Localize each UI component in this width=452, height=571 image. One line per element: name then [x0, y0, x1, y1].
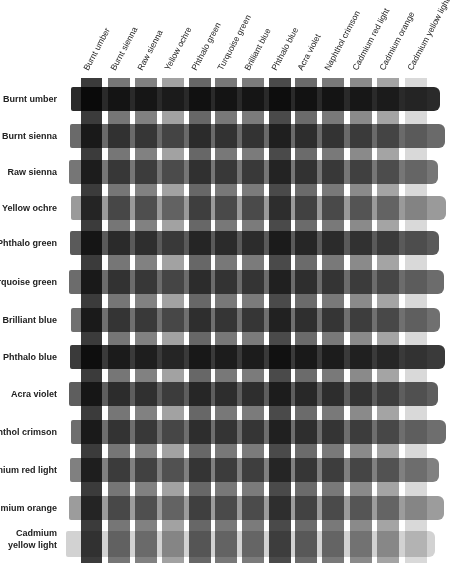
column-label-acra-violet: Acra violet	[295, 32, 322, 72]
column-strip-burnt-sienna	[108, 78, 130, 563]
column-label-burnt-sienna: Burnt sienna	[108, 25, 139, 72]
row-label-yellow-ochre: Yellow ochre	[2, 202, 57, 214]
column-strip-cadmium-orange	[377, 78, 399, 563]
column-strip-naphthol-crimson	[322, 78, 344, 563]
column-strip-raw-sienna	[135, 78, 157, 563]
pigment-mixing-chart: Burnt umberBurnt siennaRaw siennaYellow …	[0, 0, 452, 571]
column-strip-acra-violet	[295, 78, 317, 563]
column-label-yellow-ochre: Yellow ochre	[162, 25, 193, 72]
row-label-burnt-umber: Burnt umber	[3, 93, 57, 105]
row-label-cadmium-red-light: Cadmium red light	[0, 464, 57, 476]
row-label-cadmium-orange: Cadmium orange	[0, 502, 57, 514]
column-strip-phthalo-blue	[269, 78, 291, 563]
column-label-burnt-umber: Burnt umber	[81, 26, 112, 72]
column-label-cadmium-yellow-light: Cadmium yellow light	[405, 0, 452, 72]
column-strip-cadmium-red-light	[350, 78, 372, 563]
column-strip-burnt-umber	[81, 78, 102, 563]
row-label-acra-violet: Acra violet	[11, 388, 57, 400]
row-label-burnt-sienna: Burnt sienna	[2, 130, 57, 142]
row-label-brilliant-blue: Brilliant blue	[2, 314, 57, 326]
column-strip-turquoise-green	[215, 78, 237, 563]
column-strip-brilliant-blue	[242, 78, 264, 563]
column-strip-phthalo-green	[189, 78, 211, 563]
row-label-phthalo-green: Phthalo green	[0, 237, 57, 249]
row-label-naphthol-crimson: Naphthol crimson	[0, 426, 57, 438]
row-label-phthalo-blue: Phthalo blue	[3, 351, 57, 363]
column-label-raw-sienna: Raw sienna	[135, 28, 165, 72]
row-label-cadmium-yellow-light: Cadmiumyellow light	[8, 527, 57, 551]
column-strip-cadmium-yellow-light	[405, 78, 427, 563]
column-strip-yellow-ochre	[162, 78, 184, 563]
column-label-brilliant-blue: Brilliant blue	[242, 26, 273, 72]
row-label-turquoise-green: Turquoise green	[0, 276, 57, 288]
row-label-raw-sienna: Raw sienna	[7, 166, 57, 178]
